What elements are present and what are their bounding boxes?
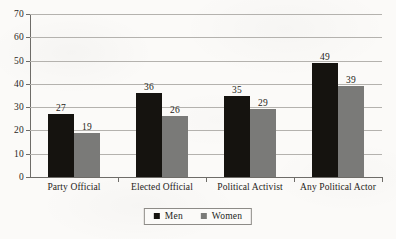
bar-value-label: 35 xyxy=(224,85,250,95)
y-tick-mark xyxy=(26,177,30,178)
y-tick-mark xyxy=(26,130,30,131)
legend-swatch-men-icon xyxy=(154,213,160,219)
bar-group: 3626 xyxy=(136,14,188,177)
bar-value-label: 36 xyxy=(136,82,162,92)
bar-men: 36 xyxy=(136,93,162,177)
y-tick-mark xyxy=(26,37,30,38)
bar-value-label: 27 xyxy=(48,103,74,113)
legend-item-men: Men xyxy=(154,211,183,221)
bar-value-label: 39 xyxy=(338,75,364,85)
y-tick-label: 30 xyxy=(14,102,24,112)
y-tick-label: 20 xyxy=(14,125,24,135)
y-tick-label: 70 xyxy=(14,9,24,19)
plot-area: 010203040506070 2719362635294939 xyxy=(30,14,382,177)
y-tick-label: 60 xyxy=(14,32,24,42)
y-tick-label: 0 xyxy=(19,172,24,182)
bar-women: 29 xyxy=(250,109,276,177)
legend-swatch-women-icon xyxy=(201,213,207,219)
y-tick-mark xyxy=(26,84,30,85)
bar-value-label: 29 xyxy=(250,98,276,108)
y-tick-mark xyxy=(26,154,30,155)
y-tick-label: 50 xyxy=(14,56,24,66)
category-tick xyxy=(206,177,207,182)
bar-value-label: 19 xyxy=(74,122,100,132)
bar-value-label: 49 xyxy=(312,52,338,62)
category-label: Political Activist xyxy=(217,182,282,192)
category-tick xyxy=(294,177,295,182)
bar-group: 4939 xyxy=(312,14,364,177)
bar-value-label: 26 xyxy=(162,105,188,115)
legend-label-men: Men xyxy=(165,211,183,221)
category-tick xyxy=(118,177,119,182)
category-label: Elected Official xyxy=(131,182,193,192)
bar-group: 2719 xyxy=(48,14,100,177)
category-label: Party Official xyxy=(47,182,100,192)
chart-page: 010203040506070 2719362635294939 Party O… xyxy=(0,0,396,239)
chart-legend: Men Women xyxy=(144,208,252,225)
bar-women: 26 xyxy=(162,116,188,177)
bar-men: 35 xyxy=(224,96,250,178)
y-tick-mark xyxy=(26,107,30,108)
bar-women: 39 xyxy=(338,86,364,177)
y-tick-mark xyxy=(26,61,30,62)
bar-men: 49 xyxy=(312,63,338,177)
bar-men: 27 xyxy=(48,114,74,177)
y-tick-label: 10 xyxy=(14,149,24,159)
legend-label-women: Women xyxy=(212,211,242,221)
y-tick-label: 40 xyxy=(14,79,24,89)
category-tick xyxy=(382,177,383,182)
bar-women: 19 xyxy=(74,133,100,177)
bar-group: 3529 xyxy=(224,14,276,177)
legend-item-women: Women xyxy=(201,211,242,221)
y-tick-mark xyxy=(26,14,30,15)
category-label: Any Political Actor xyxy=(300,182,376,192)
